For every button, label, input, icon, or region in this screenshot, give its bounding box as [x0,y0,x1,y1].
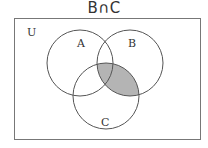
venn-diagram: U A B C [0,0,208,148]
set-b-label: B [128,37,136,50]
set-a-label: A [76,37,86,50]
universe-label: U [27,26,36,39]
set-c-label: C [101,116,109,129]
